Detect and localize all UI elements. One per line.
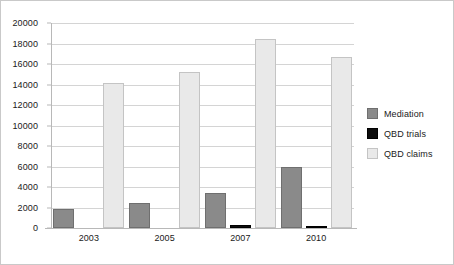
bars-layer [51, 23, 354, 228]
bar [179, 72, 200, 228]
x-axis-line [45, 228, 357, 229]
legend-label: QBD claims [384, 149, 433, 159]
x-axis-tick-label: 2010 [306, 233, 326, 243]
y-axis-tick-label: 6000 [18, 162, 38, 172]
y-axis-tick-label: 14000 [12, 80, 38, 90]
y-axis-tick-label: 16000 [12, 59, 38, 69]
x-axis-labels: 2003200520072010 [51, 233, 354, 253]
y-axis-tick-label: 20000 [12, 18, 38, 28]
y-axis-tick-label: 18000 [12, 39, 38, 49]
y-axis-tick-label: 8000 [18, 141, 38, 151]
bar [255, 39, 276, 228]
y-axis-tick-label: 2000 [18, 203, 38, 213]
y-axis-tick-label: 12000 [12, 100, 38, 110]
legend-item: QBD trials [367, 125, 453, 142]
plot-area [51, 23, 354, 228]
chart-legend: MediationQBD trialsQBD claims [367, 105, 453, 165]
x-axis-tick-label: 2007 [230, 233, 250, 243]
legend-label: Mediation [384, 109, 424, 119]
legend-label: QBD trials [384, 129, 426, 139]
bar [281, 167, 302, 229]
legend-swatch-icon [367, 148, 378, 159]
x-axis-tick-label: 2005 [154, 233, 174, 243]
bar [331, 57, 352, 228]
legend-item: Mediation [367, 105, 453, 122]
legend-swatch-icon [367, 108, 378, 119]
y-axis-line [51, 23, 52, 229]
legend-swatch-icon [367, 128, 378, 139]
bar-chart: 0200040006000800010000120001400016000180… [0, 0, 454, 265]
bar [205, 193, 226, 228]
y-axis-tick-label: 0 [33, 223, 38, 233]
bar [129, 203, 150, 228]
bar [103, 83, 124, 228]
y-axis-tick-label: 4000 [18, 182, 38, 192]
bar [53, 209, 74, 228]
legend-item: QBD claims [367, 145, 453, 162]
y-axis-tick-label: 10000 [12, 121, 38, 131]
x-axis-tick-label: 2003 [79, 233, 99, 243]
y-axis-labels: 0200040006000800010000120001400016000180… [1, 1, 45, 265]
